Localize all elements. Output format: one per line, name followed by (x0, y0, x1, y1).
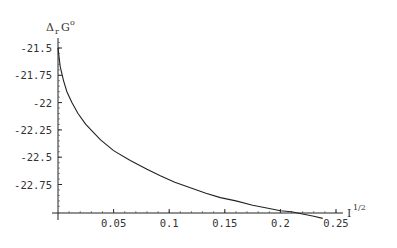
x-tick-label: 0.2 (271, 217, 290, 229)
y-axis-title-sup: o (70, 18, 75, 27)
y-tick-label: -21.5 (20, 42, 52, 54)
x-axis-title-sup: 1/2 (353, 203, 366, 212)
x-tick-label: 0.25 (323, 217, 348, 229)
x-tick-label: 0.05 (101, 217, 126, 229)
y-tick-label: -22.5 (20, 151, 52, 163)
x-axis-title-base: I (347, 207, 351, 220)
y-tick-label: -22 (33, 97, 52, 109)
chart: Δ r G o -21.5-21.75-22-22.25-22.5-22.75 … (0, 0, 397, 248)
x-ticks: 0.050.10.150.20.25 (69, 209, 349, 229)
y-axis-title: Δ r G o (46, 18, 75, 36)
x-tick-label: 0.15 (212, 217, 237, 229)
y-tick-label: -21.75 (14, 69, 52, 81)
y-axis-title-main: G (61, 21, 70, 34)
data-line (58, 48, 323, 218)
x-tick-label: 0.1 (160, 217, 179, 229)
y-tick-label: -22.25 (14, 124, 52, 136)
y-tick-label: -22.75 (14, 179, 52, 191)
y-ticks: -21.5-21.75-22-22.25-22.5-22.75 (14, 42, 62, 206)
y-axis-title-delta: Δ (46, 21, 54, 34)
y-axis-title-sub: r (55, 27, 59, 36)
x-axis-title: I 1/2 (347, 203, 366, 220)
